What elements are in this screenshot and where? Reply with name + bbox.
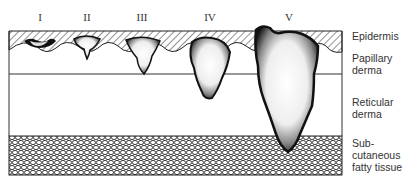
tumor-level-iii: [126, 37, 160, 74]
layer-label-reticular-derma: Reticular derma: [352, 96, 393, 120]
level-label-ii: II: [83, 11, 90, 23]
level-label-i: I: [38, 11, 42, 23]
layer-label-epidermis: Epidermis: [352, 30, 399, 42]
layer-label-subcutaneous: Sub- cutaneous fatty tissue: [352, 137, 402, 173]
level-label-iii: III: [137, 11, 148, 23]
tumor-level-v: [255, 26, 318, 152]
layer-label-papillary-derma: Papillary derma: [352, 52, 392, 76]
level-label-iv: IV: [204, 11, 216, 23]
level-label-v: V: [285, 11, 293, 23]
tumor-level-iv: [190, 38, 230, 99]
